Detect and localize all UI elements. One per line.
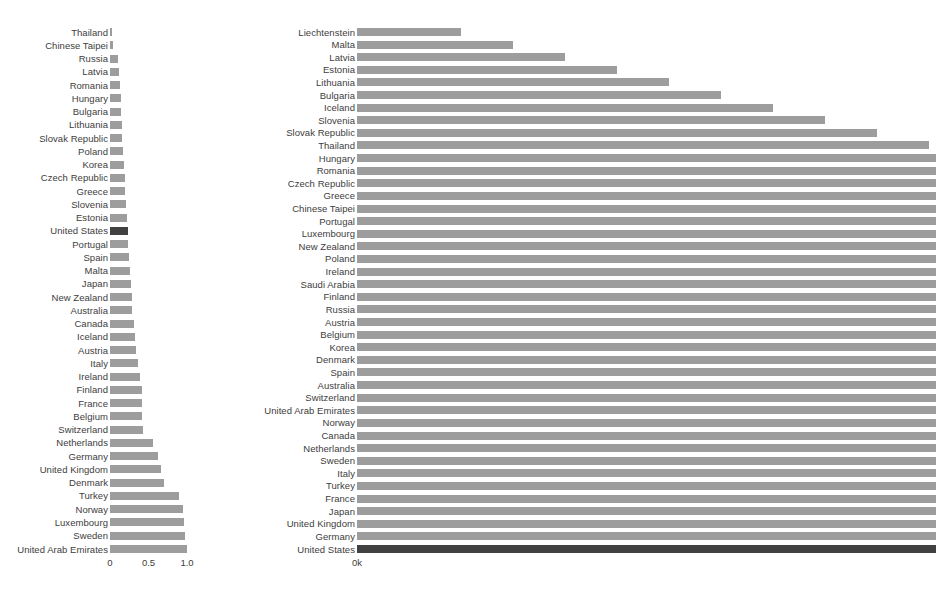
bar-row: Germany (0, 449, 234, 463)
bar (357, 104, 773, 112)
bar (357, 507, 936, 515)
bar (357, 268, 936, 276)
bar (110, 373, 140, 381)
bar-category-label: Estonia (323, 64, 355, 75)
bar-row: Slovak Republic (0, 131, 234, 145)
bar-row: Poland (0, 144, 234, 158)
bar-category-label: Ireland (79, 371, 108, 382)
bar-row: Sweden (0, 529, 234, 543)
bar-category-label: Italy (90, 358, 108, 369)
bar (357, 381, 936, 389)
bar-row: Greece (0, 184, 234, 198)
bar (357, 293, 936, 301)
bar (110, 439, 153, 447)
bar-row: Slovenia (0, 197, 234, 211)
bar (357, 469, 936, 477)
bar-category-label: Denmark (316, 354, 355, 365)
bar-category-label: Greece (77, 186, 108, 197)
bar-row: Denmark (0, 476, 234, 490)
bar (110, 147, 123, 155)
bar-row: Portugal (0, 237, 234, 251)
bar-category-label: Portugal (319, 216, 355, 227)
bar-category-label: Portugal (72, 239, 108, 250)
bar (110, 386, 142, 394)
bar (357, 368, 936, 376)
bar (110, 346, 136, 354)
bar (357, 432, 936, 440)
bar (357, 78, 669, 86)
bar-row: Spain (0, 250, 234, 264)
bar-row: Finland (0, 383, 234, 397)
bar-category-label: Finland (76, 384, 108, 395)
bar-category-label: Russia (79, 53, 108, 64)
bar (357, 91, 721, 99)
bar (110, 545, 187, 553)
x-axis-tick-label: 0 (107, 557, 112, 568)
bar-category-label: Canada (321, 430, 355, 441)
bar-category-label: France (78, 398, 108, 409)
bar (357, 394, 936, 402)
bar-row: Belgium (0, 409, 234, 423)
bar (110, 81, 120, 89)
bar (357, 66, 617, 74)
bar-category-label: United States (297, 544, 355, 555)
bar (110, 94, 121, 102)
bar (110, 426, 143, 434)
bar (110, 134, 122, 142)
bar-row: Estonia (0, 211, 234, 225)
x-axis-tick-label: 1.0 (180, 557, 193, 568)
x-axis-tick-label: 0.5 (142, 557, 155, 568)
bar-row: Norway (0, 502, 234, 516)
bar-row: Bulgaria (0, 105, 234, 119)
bar (110, 55, 118, 63)
bar-category-label: Bulgaria (73, 106, 108, 117)
bar (357, 482, 936, 490)
bar (357, 280, 936, 288)
bar-category-label: Norway (75, 504, 108, 515)
bar-row: Netherlands (0, 436, 234, 450)
bar (357, 28, 461, 36)
bar-category-label: Romania (70, 80, 108, 91)
bar-row: Lithuania (0, 118, 234, 132)
bar (357, 318, 936, 326)
bar-category-label: Slovenia (71, 199, 108, 210)
bar-category-label: Ireland (326, 266, 355, 277)
bar (110, 465, 161, 473)
bar (357, 520, 936, 528)
bar (110, 68, 119, 76)
bar-category-label: Switzerland (58, 424, 108, 435)
bar-category-label: Italy (337, 468, 355, 479)
bar (110, 121, 122, 129)
bar-category-label: Australia (71, 305, 108, 316)
bar-row: Chinese Taipei (0, 38, 234, 52)
bar-category-label: Iceland (324, 102, 355, 113)
bar-category-label: Hungary (319, 153, 355, 164)
bar (110, 532, 185, 540)
bar-category-label: Switzerland (305, 392, 355, 403)
bar (357, 192, 936, 200)
bar (110, 280, 131, 288)
bar-category-label: Australia (318, 380, 355, 391)
bar (110, 505, 183, 513)
bar-category-label: Slovak Republic (286, 127, 355, 138)
bar (357, 331, 936, 339)
bar-row: Luxembourg (0, 515, 234, 529)
bar-row: Turkey (0, 489, 234, 503)
bar-category-label: Iceland (77, 331, 108, 342)
bar-row: Malta (0, 264, 234, 278)
bar-category-label: Malta (332, 39, 355, 50)
bar (110, 214, 127, 222)
bar-category-label: Estonia (76, 212, 108, 223)
bar-row: Ireland (0, 370, 234, 384)
bar-category-label: Germany (316, 531, 355, 542)
bar (357, 205, 936, 213)
bar-category-label: Finland (323, 291, 355, 302)
bar (357, 41, 513, 49)
bar-category-label: Czech Republic (288, 178, 355, 189)
bar-category-label: Turkey (79, 490, 108, 501)
bar-category-label: Thailand (71, 27, 108, 38)
bar-category-label: Luxembourg (55, 517, 108, 528)
bar-category-label: Czech Republic (41, 172, 108, 183)
bar (110, 174, 125, 182)
bar (110, 253, 129, 261)
